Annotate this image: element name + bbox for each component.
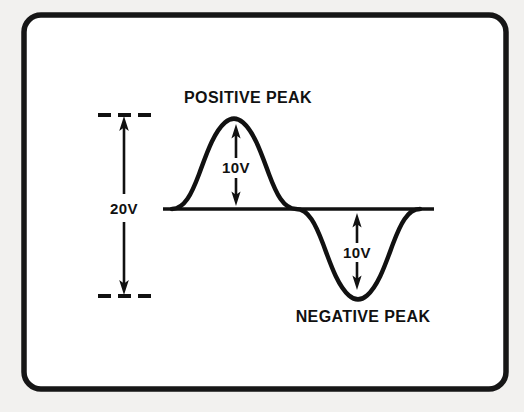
diagram-frame [24,15,506,389]
positive-peak-label: POSITIVE PEAK [184,89,312,106]
waveform-diagram: 20V POSITIVE PEAK 10V 10V [0,0,524,412]
positive-amplitude-label: 10V [222,159,250,176]
negative-amplitude-label: 10V [343,244,371,261]
figure-root: 20V POSITIVE PEAK 10V 10V [0,0,524,412]
peak-to-peak-label: 20V [110,200,138,217]
negative-peak-label: NEGATIVE PEAK [296,308,431,325]
